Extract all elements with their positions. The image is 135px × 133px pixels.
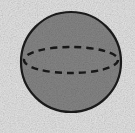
sphere-figure — [0, 0, 135, 133]
sphere-outline — [21, 12, 121, 112]
sphere-diagram-svg — [0, 0, 135, 133]
